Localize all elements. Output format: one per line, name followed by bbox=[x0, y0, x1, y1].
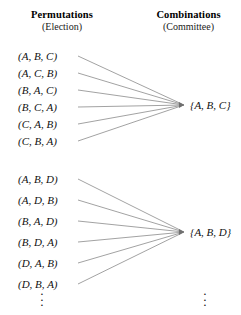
permutation-item: (B, D, A) bbox=[18, 236, 58, 248]
permutation-item: (B, A, C) bbox=[18, 84, 57, 96]
right-column-header: Combinations (Committee) bbox=[136, 9, 241, 33]
permutation-item: (D, A, B) bbox=[18, 257, 58, 269]
combination-item: {A, B, D} bbox=[190, 226, 231, 238]
permutation-item: (A, B, D) bbox=[18, 173, 58, 185]
permutation-item: (C, A, B) bbox=[18, 118, 57, 130]
combinations-subtitle: (Committee) bbox=[136, 21, 241, 33]
combinations-title: Combinations bbox=[136, 9, 241, 21]
permutation-item: (D, B, A) bbox=[18, 278, 58, 290]
combination-item: {A, B, C} bbox=[190, 99, 231, 111]
right-vertical-ellipsis: · · · bbox=[200, 291, 210, 308]
left-vertical-ellipsis: · · · bbox=[37, 291, 47, 308]
permutation-item: (B, A, D) bbox=[18, 215, 58, 227]
permutation-item: (C, B, A) bbox=[18, 135, 57, 147]
permutations-subtitle: (Election) bbox=[0, 21, 124, 33]
ellipsis-dot: · bbox=[37, 302, 47, 308]
permutation-item: (A, B, C) bbox=[18, 50, 57, 62]
permutation-item: (A, D, B) bbox=[18, 194, 58, 206]
permutation-item: (A, C, B) bbox=[18, 67, 57, 79]
permutations-combinations-figure: Permutations (Election) Combinations (Co… bbox=[0, 0, 241, 315]
permutation-item: (B, C, A) bbox=[18, 101, 57, 113]
permutations-title: Permutations bbox=[0, 9, 124, 21]
ellipsis-dot: · bbox=[200, 302, 210, 308]
left-column-header: Permutations (Election) bbox=[0, 9, 124, 33]
